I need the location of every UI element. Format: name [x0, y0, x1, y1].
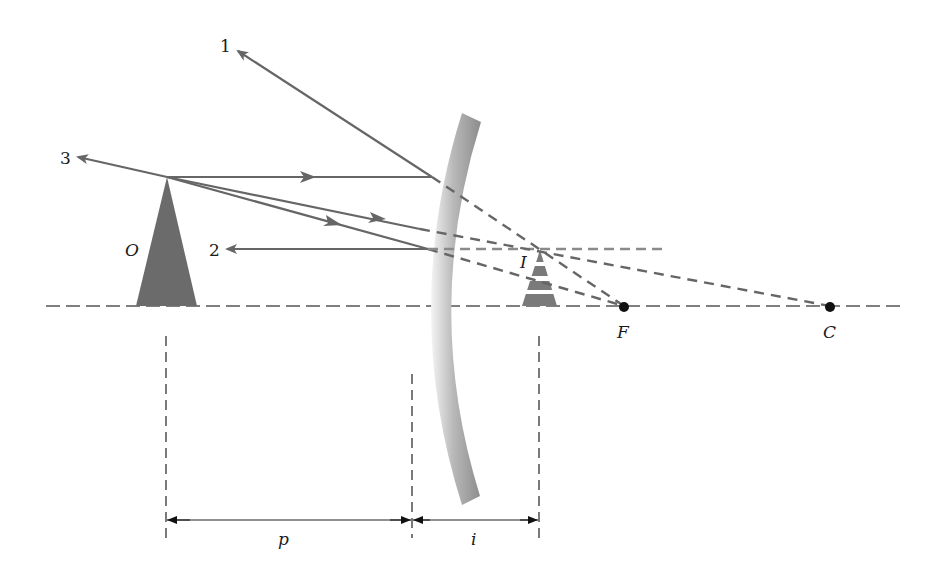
image-label: I — [519, 252, 527, 272]
ray-1 — [167, 51, 624, 306]
ray-2 — [167, 177, 662, 306]
focal-point-label: F — [616, 322, 630, 342]
center-of-curvature-dot — [825, 302, 835, 312]
ray-2-label: 2 — [209, 240, 220, 260]
convex-mirror — [431, 113, 481, 505]
object-label: O — [125, 240, 139, 260]
object-arrow — [136, 177, 197, 306]
focal-point-dot — [619, 302, 629, 312]
ray-1-label: 1 — [220, 36, 231, 56]
image-distance-label: i — [471, 529, 476, 549]
ray-diagram: 1 2 3 O I F C p i — [0, 0, 943, 566]
ray-3-label: 3 — [60, 148, 71, 168]
center-of-curvature-label: C — [823, 322, 836, 342]
object-distance-label: p — [278, 529, 289, 549]
